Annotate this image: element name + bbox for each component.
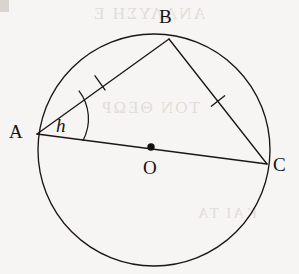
tick-mark-ab: [95, 76, 105, 90]
tick-mark-bc: [211, 96, 224, 106]
geometry-canvas: [0, 0, 299, 274]
circle-outline: [38, 34, 270, 266]
vertex-label-c: C: [273, 155, 286, 174]
angle-label-h: h: [56, 116, 66, 135]
centre-label-o: O: [143, 158, 157, 177]
geometry-figure: ΑΝΑΛΥΣΗ Ε ΤΟΝ ΘΕΩΡ ΚΑΙ ΤΑ A B C O h: [0, 0, 299, 274]
centre-point-dot: [147, 143, 154, 150]
vertex-label-b: B: [159, 7, 172, 26]
vertex-label-a: A: [9, 122, 23, 141]
